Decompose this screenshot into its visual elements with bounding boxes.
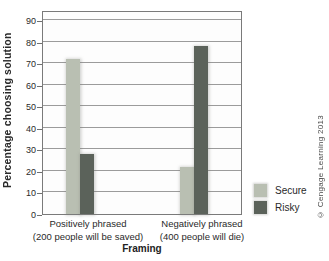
- y-tick-mark-20: [37, 172, 42, 173]
- legend: SecureRisky: [254, 182, 307, 216]
- y-tick-label-90: 90: [12, 16, 36, 26]
- secure-bar-category-1: [180, 167, 194, 214]
- x-category-line2: (400 people will die): [122, 230, 282, 243]
- y-tick-label-10: 10: [12, 188, 36, 198]
- y-tick-label-70: 70: [12, 59, 36, 69]
- framing-bar-chart-figure: Percentage choosing solution 01020304050…: [0, 0, 329, 261]
- legend-row-risky: Risky: [254, 199, 307, 216]
- gridline-80: [43, 41, 241, 42]
- x-category-line1: Negatively phrased: [122, 217, 282, 230]
- legend-row-secure: Secure: [254, 182, 307, 199]
- y-tick-mark-70: [37, 64, 42, 65]
- y-tick-label-20: 20: [12, 167, 36, 177]
- y-tick-mark-30: [37, 150, 42, 151]
- x-axis-title: Framing: [42, 243, 242, 254]
- y-tick-label-30: 30: [12, 145, 36, 155]
- y-tick-mark-90: [37, 21, 42, 22]
- y-tick-label-80: 80: [12, 38, 36, 48]
- gridline-90: [43, 19, 241, 20]
- x-category-label-1: Negatively phrased(400 people will die): [122, 217, 282, 243]
- y-tick-mark-50: [37, 107, 42, 108]
- legend-label-risky: Risky: [275, 202, 299, 213]
- y-tick-mark-60: [37, 86, 42, 87]
- secure-bar-category-0: [66, 59, 80, 214]
- plot-area: [42, 11, 242, 215]
- legend-label-secure: Secure: [275, 185, 307, 196]
- y-tick-mark-10: [37, 193, 42, 194]
- y-tick-label-50: 50: [12, 102, 36, 112]
- risky-bar-category-0: [80, 154, 94, 214]
- y-tick-mark-40: [37, 129, 42, 130]
- y-tick-label-60: 60: [12, 81, 36, 91]
- legend-swatch-risky: [254, 201, 267, 214]
- y-tick-mark-0: [37, 215, 42, 216]
- risky-bar-category-1: [194, 46, 208, 214]
- y-tick-mark-80: [37, 43, 42, 44]
- y-tick-label-40: 40: [12, 124, 36, 134]
- legend-swatch-secure: [254, 184, 267, 197]
- credit-text: © Cengage Learning 2013: [316, 115, 325, 219]
